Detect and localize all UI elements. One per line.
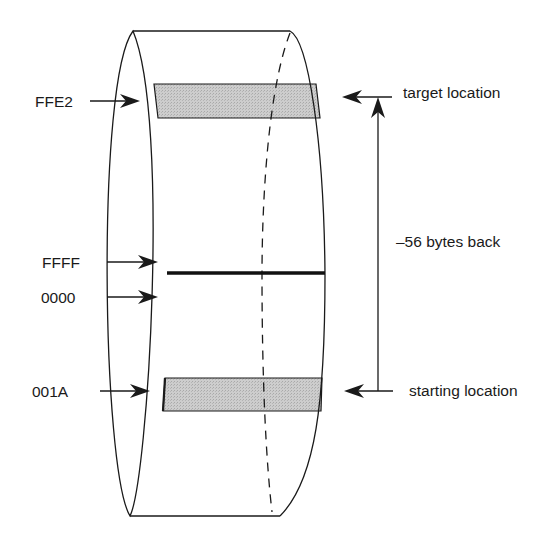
label-ffe2: FFE2 xyxy=(35,94,73,110)
start-band xyxy=(163,378,322,411)
memory-segment-cylinder-diagram xyxy=(0,0,555,545)
arrow-left-icon xyxy=(344,384,393,398)
left-arrows xyxy=(90,94,158,398)
label-ffff: FFFF xyxy=(42,255,80,271)
target-band xyxy=(154,84,320,118)
arrow-right-icon xyxy=(107,290,158,304)
label-target-location: target location xyxy=(403,85,500,101)
arrow-right-icon xyxy=(107,255,158,269)
label-001a: 001A xyxy=(32,384,68,400)
offset-dimension-arrow xyxy=(371,97,385,391)
arrow-left-icon xyxy=(342,90,392,104)
right-arrows xyxy=(342,90,393,398)
label-starting-location: starting location xyxy=(409,383,518,399)
label-0000: 0000 xyxy=(41,290,75,306)
arrow-right-icon xyxy=(100,384,150,398)
label-offset-bytes-back: –56 bytes back xyxy=(396,234,500,250)
